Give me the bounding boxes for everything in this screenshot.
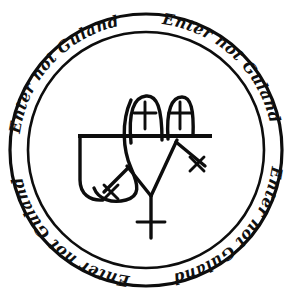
seal-figure: Enter not Guland Enter not Guland Enter … [0,0,294,302]
guland-sigil [78,96,212,238]
seal-canvas: Enter not Guland Enter not Guland Enter … [0,0,294,302]
cross-upper-left-icon [134,102,156,129]
inscription-band: Enter not Guland Enter not Guland Enter … [5,9,287,291]
left-diagonal-arm [127,166,151,196]
band-segment-2: Enter not Guland [171,164,287,289]
band-segment-2-text: Enter not Guland [171,164,287,289]
left-hook [80,138,103,200]
right-diagonal-arm [151,140,177,196]
inner-circle [28,32,264,268]
band-segment-4-text: Enter not Guland [5,11,121,136]
band-segment-4: Enter not Guland [5,11,121,136]
